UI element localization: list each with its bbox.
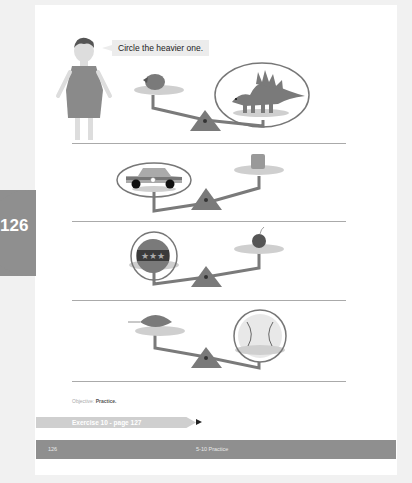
instruction-bubble: Circle the heavier one. xyxy=(112,40,209,56)
toy-car-icon xyxy=(126,168,182,189)
divider xyxy=(72,143,346,144)
footer-section: 5-10 Practice xyxy=(196,440,228,459)
seesaw-4 xyxy=(128,310,286,368)
drum-icon: ★★★ xyxy=(136,239,170,273)
cube-block-icon xyxy=(251,154,265,169)
objective-text: Objective: Practice. xyxy=(72,398,116,404)
divider xyxy=(72,381,346,382)
child-figure-icon xyxy=(58,38,110,140)
stegosaurus-icon xyxy=(232,70,305,113)
seesaw-1 xyxy=(134,63,309,131)
footer-page-number: 126 xyxy=(48,440,57,459)
seesaw-3: ★★★ xyxy=(129,227,284,287)
divider xyxy=(72,300,346,301)
exercise-link-text[interactable]: Exercise 10 - page 127 xyxy=(72,417,141,428)
illustrations: ★★★ xyxy=(0,0,412,483)
divider xyxy=(72,221,346,222)
arrow-right-icon xyxy=(196,419,202,425)
footer-bar: 126 5-10 Practice xyxy=(36,440,396,459)
svg-text:★★★: ★★★ xyxy=(141,251,165,261)
cherry-icon xyxy=(252,227,266,248)
baseball-icon xyxy=(235,314,285,358)
seesaw-2 xyxy=(117,154,284,211)
leaf-icon xyxy=(128,315,172,327)
